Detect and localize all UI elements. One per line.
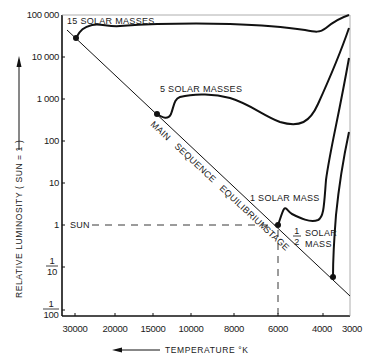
x-tick-4000: 4000 xyxy=(312,323,332,334)
x-tick-3000: 3000 xyxy=(342,323,362,334)
y-tick-0.01-numerator: 1 xyxy=(49,298,54,309)
svg-text:2: 2 xyxy=(294,237,299,247)
svg-text:STAGE: STAGE xyxy=(262,224,292,253)
svg-text:MASS: MASS xyxy=(305,239,332,249)
arrow-up-icon xyxy=(17,56,22,67)
svg-text:SOLAR: SOLAR xyxy=(305,228,337,238)
y-axis-labels: 100 000 10 000 1 000 100 10 1 1 10 1 100 xyxy=(27,9,59,320)
x-tick-8000: 8000 xyxy=(224,323,244,334)
start-point-5-solar-masses xyxy=(154,111,160,117)
start-point-half-solar-mass xyxy=(330,274,336,280)
label-15-solar-masses: 15 SOLAR MASSES xyxy=(67,16,155,26)
y-tick-100000: 100 000 xyxy=(27,9,59,20)
y-tick-1000: 1 000 xyxy=(37,93,59,104)
x-axis-title: TEMPERATURE °K xyxy=(112,345,248,355)
start-point-15-solar-masses xyxy=(73,35,79,41)
svg-text:RELATIVE LUMINOSITY ( SUN =: RELATIVE LUMINOSITY ( SUN = 1 ) xyxy=(14,140,24,298)
label-half-solar-mass: 1 2 SOLAR MASS xyxy=(293,226,337,249)
svg-text:TEMPERATURE °K: TEMPERATURE °K xyxy=(165,345,248,355)
y-tick-0.1-denominator: 10 xyxy=(47,266,57,277)
arrow-left-icon xyxy=(112,348,122,353)
svg-text:1: 1 xyxy=(294,226,299,236)
sun-label: SUN xyxy=(70,220,90,230)
main-sequence-label: MAIN SEQUENCE EQUILIBRIUM STAGE xyxy=(149,119,292,253)
y-tick-10: 10 xyxy=(49,177,59,188)
y-tick-10000: 10 000 xyxy=(32,51,59,62)
x-tick-20000: 20000 xyxy=(103,323,128,334)
svg-text:MAIN: MAIN xyxy=(149,119,173,142)
main-sequence-line xyxy=(67,30,350,296)
y-tick-0.1-numerator: 1 xyxy=(50,255,55,266)
sun-reference-lines xyxy=(92,225,278,314)
y-tick-0.01-denominator: 100 xyxy=(44,309,59,320)
x-tick-15000: 15000 xyxy=(141,323,166,334)
x-axis-labels: 30000 20000 15000 10000 8000 6000 4000 3… xyxy=(63,323,362,334)
label-1-solar-mass: 1 SOLAR MASS xyxy=(250,193,320,203)
x-tick-10000: 10000 xyxy=(179,323,204,334)
x-tick-6000: 6000 xyxy=(268,323,288,334)
track-5-solar-masses xyxy=(157,28,349,124)
y-tick-1: 1 xyxy=(54,219,59,230)
label-5-solar-masses: 5 SOLAR MASSES xyxy=(160,84,242,94)
x-tick-30000: 30000 xyxy=(63,323,88,334)
start-point-1-solar-mass xyxy=(275,222,281,228)
y-axis-title: RELATIVE LUMINOSITY ( SUN = 1 ) xyxy=(14,56,24,298)
hr-diagram-chart: 100 000 10 000 1 000 100 10 1 1 10 1 100… xyxy=(0,0,370,362)
y-tick-100: 100 xyxy=(44,135,59,146)
track-half-solar-mass xyxy=(333,132,349,277)
svg-text:SEQUENCE: SEQUENCE xyxy=(173,141,219,184)
